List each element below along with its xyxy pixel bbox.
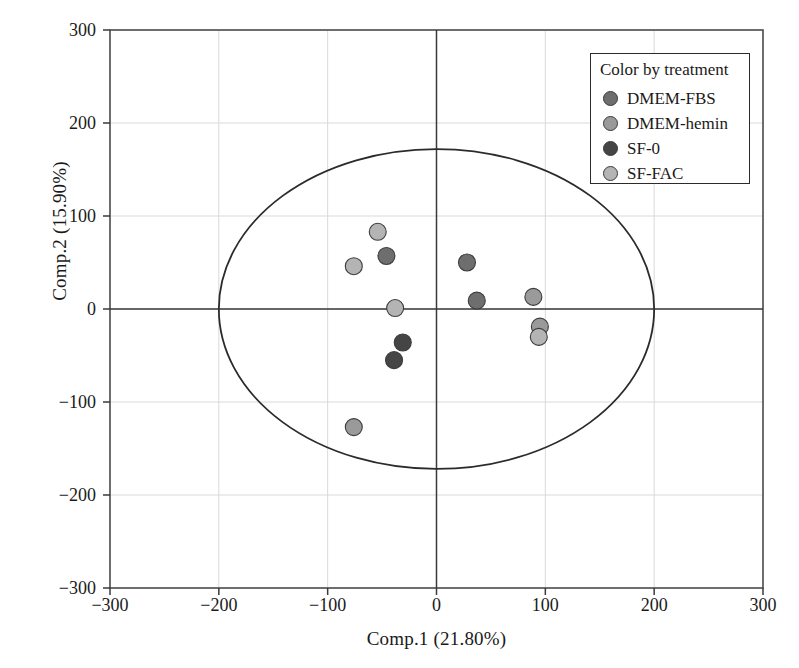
legend-title: Color by treatment xyxy=(600,60,728,80)
y-tick-label: 100 xyxy=(0,207,96,225)
y-tick-label: −300 xyxy=(0,579,96,597)
x-tick-label: 200 xyxy=(594,596,714,614)
data-points xyxy=(345,223,548,435)
y-tick-label: 200 xyxy=(0,114,96,132)
legend-marker-icon xyxy=(603,166,618,181)
x-tick-label: 300 xyxy=(703,596,799,614)
legend-item-label: SF-FAC xyxy=(627,165,683,182)
x-tick-label: 100 xyxy=(485,596,605,614)
y-tick-label: −200 xyxy=(0,486,96,504)
legend-item-label: SF-0 xyxy=(627,140,660,157)
legend-box: Color by treatment DMEM-FBSDMEM-heminSF-… xyxy=(590,53,750,184)
y-tick-label: 0 xyxy=(0,300,96,318)
y-tick-label: −100 xyxy=(0,393,96,411)
legend-marker-icon xyxy=(603,91,618,106)
y-tick-label: 300 xyxy=(0,21,96,39)
x-tick-label: 0 xyxy=(377,596,497,614)
x-tick-label: −200 xyxy=(159,596,279,614)
legend-item-dmem-fbs[interactable]: DMEM-FBS xyxy=(603,86,716,110)
y-axis-label: Comp.2 (15.90%) xyxy=(49,111,71,351)
legend-marker-icon xyxy=(603,116,618,131)
legend-item-label: DMEM-hemin xyxy=(627,115,728,132)
chart-container: 3002001000−100−200−300 −300−200−10001002… xyxy=(0,0,799,668)
legend-marker-icon xyxy=(603,141,618,156)
x-tick-label: −100 xyxy=(268,596,388,614)
legend-item-label: DMEM-FBS xyxy=(627,90,716,107)
legend-item-dmem-hemin[interactable]: DMEM-hemin xyxy=(603,111,728,135)
legend-item-sf-0[interactable]: SF-0 xyxy=(603,136,660,160)
x-tick-label: −300 xyxy=(50,596,170,614)
x-axis-label: Comp.1 (21.80%) xyxy=(110,628,763,650)
legend-item-sf-fac[interactable]: SF-FAC xyxy=(603,161,683,185)
